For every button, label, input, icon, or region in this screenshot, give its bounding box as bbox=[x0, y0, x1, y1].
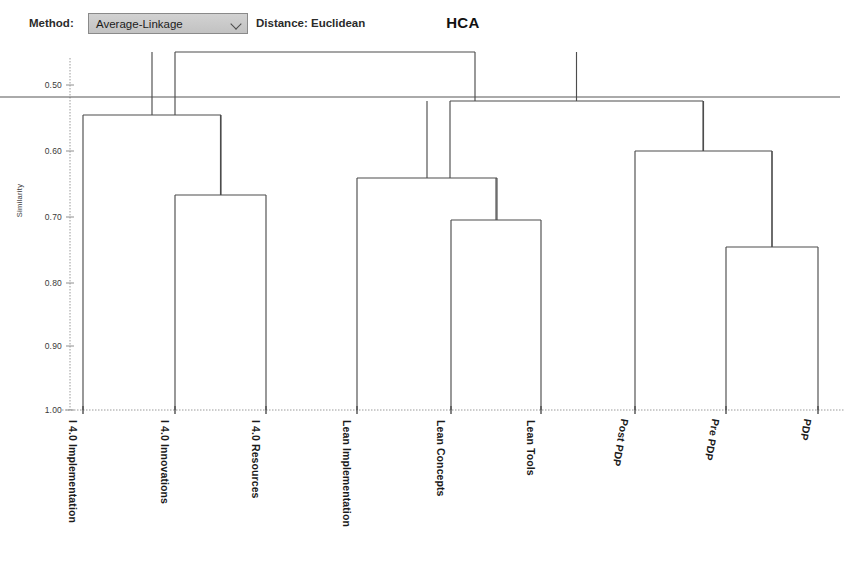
leaf-label: I 4.0 Resources bbox=[250, 420, 262, 499]
dendrogram-plot: Similarity 0.500.600.700.800.901.00 I 4.… bbox=[0, 0, 861, 575]
y-tick-label: 0.60 bbox=[28, 146, 62, 156]
y-tick-label: 0.50 bbox=[28, 80, 62, 90]
dendrogram-svg bbox=[0, 0, 861, 575]
y-axis-label: Similarity bbox=[15, 166, 24, 236]
y-tick-label: 1.00 bbox=[28, 405, 62, 415]
leaf-label: I 4.0 Innovations bbox=[159, 420, 171, 504]
leaf-label: I 4.0 Implementation bbox=[67, 420, 79, 523]
dendrogram-links bbox=[83, 52, 818, 410]
y-tick-label: 0.70 bbox=[28, 212, 62, 222]
leaf-label: Lean Implementation bbox=[341, 420, 353, 527]
leaf-label: Lean Concepts bbox=[435, 420, 447, 497]
y-tick-label: 0.80 bbox=[28, 278, 62, 288]
y-tick-label: 0.90 bbox=[28, 341, 62, 351]
leaf-label: Lean Tools bbox=[525, 420, 537, 476]
